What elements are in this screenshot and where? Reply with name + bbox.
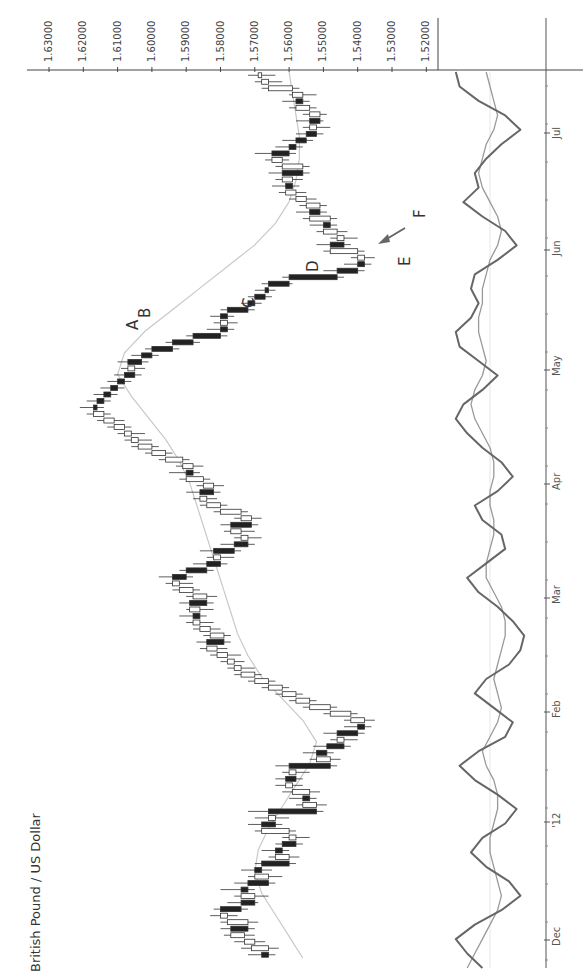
candle-down (269, 809, 317, 814)
candle-up (104, 418, 114, 423)
candle-down (172, 340, 193, 345)
candle-up (231, 529, 241, 534)
candle-down (327, 744, 344, 749)
candle-down (97, 399, 104, 404)
candle-up (330, 711, 351, 716)
candle-up (303, 802, 317, 807)
candle-down (310, 210, 320, 215)
candle-down (104, 392, 111, 397)
candle-down (190, 600, 207, 605)
chart-title: British Pound / US Dollar (28, 813, 43, 972)
candle-up (337, 236, 344, 241)
candle-up (183, 464, 193, 469)
candle-down (186, 470, 193, 475)
candle-up (94, 412, 104, 417)
candle-down (286, 184, 293, 189)
candle-up (241, 535, 248, 540)
candle-up (282, 692, 296, 697)
candle-down (118, 379, 125, 384)
candle-down (94, 405, 97, 410)
candle-up (221, 509, 242, 514)
candle-down (272, 151, 289, 156)
candle-down (337, 731, 358, 736)
candle-down (262, 952, 269, 957)
date-tick-label: '12 (551, 813, 562, 828)
candle-down (296, 99, 303, 104)
price-tick-label: 1.54000 (352, 21, 363, 62)
candle-down (241, 900, 255, 905)
price-tick-label: 1.59000 (180, 21, 191, 62)
candle-down (200, 490, 214, 495)
candle-up (282, 177, 292, 182)
candle-up (190, 607, 200, 612)
date-tick-label: Feb (551, 700, 562, 718)
moving-average-layer (118, 72, 317, 958)
candle-up (272, 157, 282, 162)
candle-down (289, 144, 296, 149)
candle-down (306, 131, 316, 136)
candle-up (275, 855, 289, 860)
candle-up (251, 946, 268, 951)
candle-up (200, 496, 207, 501)
price-tick-label: 1.55000 (317, 21, 328, 62)
annotation-e: E (396, 257, 414, 266)
candle-down (193, 614, 200, 619)
candle-up (203, 483, 213, 488)
candle-down (289, 275, 337, 280)
date-tick-label: Mar (551, 584, 562, 604)
candle-up (241, 672, 255, 677)
candle-up (152, 451, 166, 456)
annotation-b: B (136, 308, 154, 318)
candle-up (269, 815, 276, 820)
candle-up (310, 112, 320, 117)
candle-up (245, 939, 255, 944)
candle-up (286, 190, 296, 195)
candle-down (231, 522, 252, 527)
date-tick-label: May (551, 355, 562, 376)
candle-up (193, 620, 200, 625)
candle-up (234, 666, 241, 671)
candle-up (269, 685, 283, 690)
axes-layer: 1.630001.620001.610001.600001.590001.580… (27, 18, 583, 968)
annotation-c: C (240, 298, 258, 308)
candle-down (124, 372, 134, 377)
candle-up (193, 594, 207, 599)
indicator-panel (456, 72, 524, 968)
candle-down (275, 848, 282, 853)
date-tick-label: Dec (551, 927, 562, 946)
candle-up (241, 516, 251, 521)
candle-up (128, 366, 135, 371)
candle-down (221, 314, 228, 319)
candle-down (262, 861, 289, 866)
price-tick-label: 1.62000 (77, 21, 88, 62)
price-tick-label: 1.63000 (43, 21, 54, 62)
candle-up (217, 653, 227, 658)
candle-down (282, 171, 303, 176)
candle-up (255, 679, 269, 684)
candle-down (330, 242, 344, 247)
candle-up (207, 503, 221, 508)
candle-down (262, 822, 276, 827)
candle-up (179, 587, 193, 592)
candle-up (296, 698, 310, 703)
candle-up (241, 894, 255, 899)
candle-up (296, 197, 306, 202)
candle-up (269, 86, 293, 91)
candle-down (255, 868, 262, 873)
candle-up (306, 203, 320, 208)
candle-up (221, 320, 228, 325)
candle-up (310, 216, 331, 221)
candle-up (200, 627, 210, 632)
chart: 1.630001.620001.610001.600001.590001.580… (0, 0, 583, 980)
candle-down (269, 281, 290, 286)
candle-up (262, 828, 289, 833)
candle-up (317, 757, 331, 762)
annotation-arrowhead (378, 234, 390, 244)
candle-up (186, 477, 203, 482)
candle-down (221, 327, 228, 332)
candle-down (111, 385, 118, 390)
candle-down (221, 907, 242, 912)
indicator-slow-line (467, 72, 505, 968)
price-tick-label: 1.52000 (420, 21, 431, 62)
candle-up (131, 438, 138, 443)
